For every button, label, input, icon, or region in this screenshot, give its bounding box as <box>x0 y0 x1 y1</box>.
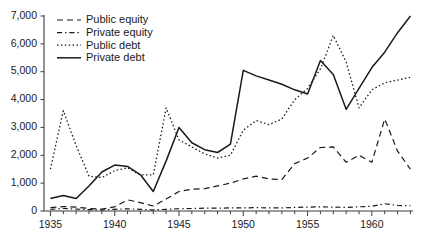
x-tick-label: 1955 <box>296 218 320 230</box>
y-tick-label: 2,000 <box>11 148 37 160</box>
legend-label-private-equity: Private equity <box>86 26 153 38</box>
y-tick-label: 7,000 <box>11 9 37 21</box>
legend-label-private-debt: Private debt <box>86 51 145 63</box>
x-tick-label: 1960 <box>360 218 384 230</box>
series-line-public-equity <box>50 119 410 209</box>
y-tick-label: 1,000 <box>11 176 37 188</box>
x-axis-ticks: 193519401945195019551960 <box>39 211 411 230</box>
legend-label-public-debt: Public debt <box>86 39 140 51</box>
x-tick-label: 1935 <box>39 218 63 230</box>
chart-container: 01,0002,0003,0004,0005,0006,0007,000 193… <box>0 0 430 246</box>
x-tick-label: 1945 <box>167 218 191 230</box>
line-chart: 01,0002,0003,0004,0005,0006,0007,000 193… <box>0 0 430 246</box>
x-tick-label: 1950 <box>232 218 256 230</box>
x-tick-label: 1940 <box>103 218 127 230</box>
y-tick-label: 3,000 <box>11 120 37 132</box>
chart-legend: Public equityPrivate equityPublic debtPr… <box>57 13 153 63</box>
y-tick-label: 6,000 <box>11 37 37 49</box>
y-tick-label: 5,000 <box>11 64 37 76</box>
y-tick-label: 0 <box>31 204 37 216</box>
legend-label-public-equity: Public equity <box>86 13 149 25</box>
y-tick-label: 4,000 <box>11 92 37 104</box>
y-axis-ticks: 01,0002,0003,0004,0005,0006,0007,000 <box>11 9 44 216</box>
